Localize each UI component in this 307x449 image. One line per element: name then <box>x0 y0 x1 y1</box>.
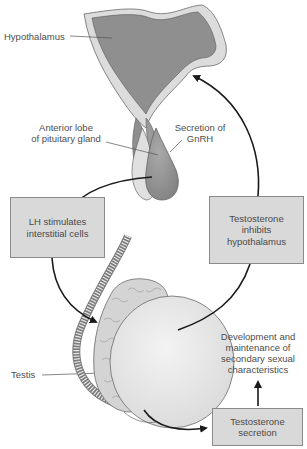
box-testosterone-secretion: Testosterone secretion <box>212 408 303 446</box>
box-testosterone-inhibits: Testosterone inhibits hypothalamus <box>209 196 304 264</box>
label-development: Development and maintenance of secondary… <box>212 331 304 375</box>
label-anterior-lobe-line1: Anterior lobe <box>26 122 106 133</box>
label-anterior-lobe: Anterior lobe of pituitary gland <box>26 122 106 144</box>
label-development-line2: maintenance of <box>212 342 304 353</box>
box-lh-line1: LH stimulates <box>27 216 89 228</box>
box-lh-line2: interstitial cells <box>27 228 89 240</box>
box-secretion-line1: Testosterone <box>230 416 284 428</box>
label-secretion-gnrh: Secretion of GnRH <box>170 122 230 144</box>
label-hypothalamus: Hypothalamus <box>4 31 65 42</box>
box-inhibits-line2: inhibits <box>227 224 286 236</box>
label-development-line4: characteristics <box>212 364 304 375</box>
box-inhibits-line3: hypothalamus <box>227 236 286 248</box>
label-testis: Testis <box>11 369 35 380</box>
box-secretion-line2: secretion <box>230 427 284 439</box>
label-secretion-line1: Secretion of <box>170 122 230 133</box>
label-development-line3: secondary sexual <box>212 353 304 364</box>
label-anterior-lobe-line2: of pituitary gland <box>26 133 106 144</box>
box-lh-stimulates: LH stimulates interstitial cells <box>10 197 105 258</box>
label-secretion-line2: GnRH <box>170 133 230 144</box>
box-inhibits-line1: Testosterone <box>227 213 286 225</box>
label-development-line1: Development and <box>212 331 304 342</box>
